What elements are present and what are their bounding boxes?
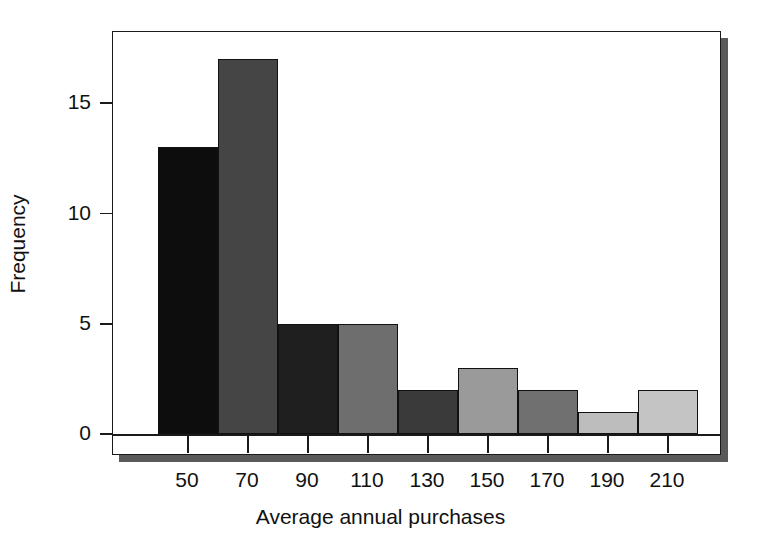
bar-150	[458, 368, 518, 434]
x-tick-label-210: 210	[637, 468, 697, 492]
x-tick-170	[547, 435, 549, 453]
x-axis-baseline	[113, 434, 720, 436]
y-tick-5	[100, 323, 113, 325]
x-tick-label-110: 110	[337, 468, 397, 492]
x-tick-label-170: 170	[517, 468, 577, 492]
x-tick-label-190: 190	[577, 468, 637, 492]
plot-frame	[112, 31, 721, 455]
y-tick-10	[100, 213, 113, 215]
y-tick-label-15: 15	[51, 90, 91, 114]
bar-190	[578, 412, 638, 434]
bar-70	[218, 59, 278, 434]
bar-210	[638, 390, 698, 434]
x-tick-190	[607, 435, 609, 453]
y-tick-0	[100, 433, 113, 435]
plot-data-area	[113, 32, 720, 435]
y-tick-label-0: 0	[51, 421, 91, 445]
bar-50	[158, 147, 218, 434]
x-tick-70	[247, 435, 249, 453]
y-tick-label-10: 10	[51, 201, 91, 225]
bar-130	[398, 390, 458, 434]
x-tick-label-50: 50	[157, 468, 217, 492]
x-tick-130	[427, 435, 429, 453]
x-tick-90	[307, 435, 309, 453]
x-tick-210	[667, 435, 669, 453]
y-axis-title: Frequency	[6, 124, 30, 364]
x-tick-50	[187, 435, 189, 453]
x-tick-label-150: 150	[457, 468, 517, 492]
bar-170	[518, 390, 578, 434]
y-tick-15	[100, 102, 113, 104]
x-tick-label-130: 130	[397, 468, 457, 492]
x-tick-label-90: 90	[277, 468, 337, 492]
bar-110	[338, 324, 398, 434]
bar-90	[278, 324, 338, 434]
histogram-figure: 051015 507090110130150170190210 Frequenc…	[0, 0, 761, 554]
x-tick-110	[367, 435, 369, 453]
x-tick-label-70: 70	[217, 468, 277, 492]
y-tick-label-5: 5	[51, 311, 91, 335]
x-tick-150	[487, 435, 489, 453]
x-axis-title: Average annual purchases	[0, 505, 761, 529]
